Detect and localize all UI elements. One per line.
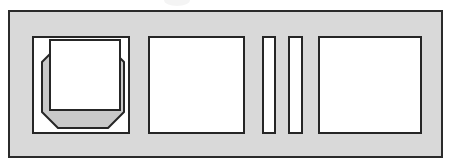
octagon-inner-square [50,40,120,110]
bar-left [262,36,276,134]
figure-canvas [0,0,451,158]
octagon-graphic [34,38,128,132]
bar-right [288,36,303,134]
octagon-bevel-icon [34,38,128,132]
panel-plain-left [148,36,245,134]
panel-plain-right [318,36,422,134]
panel-octagon [32,36,130,134]
scan-smudge-artifact [164,0,190,6]
outer-frame [8,10,443,158]
